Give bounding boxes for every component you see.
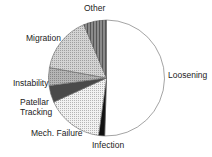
label-loosening: Loosening [168, 71, 207, 80]
label-patellar-1: Patellar [20, 98, 49, 107]
label-patellar-2: Tracking [20, 108, 52, 117]
label-instability: Instability [13, 79, 48, 88]
label-other: Other [84, 4, 105, 13]
label-migration: Migration [26, 34, 61, 43]
pie-chart: Other Migration Instability Patellar Tra… [0, 0, 212, 157]
slice-loosening [105, 20, 165, 136]
label-infection: Infection [92, 141, 124, 150]
label-mech-failure: Mech. Failure [31, 129, 83, 138]
